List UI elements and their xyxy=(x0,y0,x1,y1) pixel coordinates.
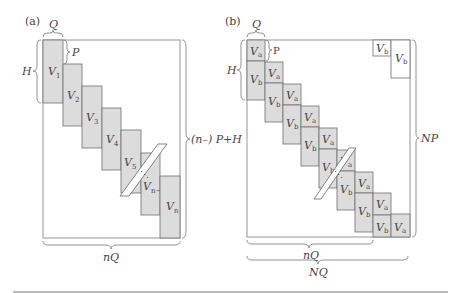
block-col-8: Va xyxy=(391,214,410,237)
panel-b-label: (b) xyxy=(225,15,241,28)
corner-block-small: Vb xyxy=(373,40,391,56)
h-label: H xyxy=(21,65,32,78)
diagram-canvas: (a) Q V1 V2 V3 V4 V5 Vn−1 xyxy=(0,0,455,293)
panel-a-label: (a) xyxy=(25,15,40,28)
ellipsis-dots: ⋱ xyxy=(334,170,343,180)
block-col-0: Va Vb xyxy=(247,40,265,100)
block-col-7: Va Vb xyxy=(373,193,391,237)
block-col-3: Va Vb xyxy=(301,106,319,166)
height-brace-icon xyxy=(182,40,190,238)
figure: (a) Q V1 V2 V3 V4 V5 Vn−1 xyxy=(0,0,455,293)
block-v4: V4 xyxy=(102,108,121,170)
panel-a: (a) Q V1 V2 V3 V4 V5 Vn−1 xyxy=(21,15,242,264)
big-nq-label: NQ xyxy=(308,266,328,279)
nq-label: nQ xyxy=(103,251,119,264)
big-nq-brace-icon xyxy=(247,256,408,264)
ellipsis-dots: ⋱ xyxy=(140,170,149,180)
q-brace-icon xyxy=(43,30,63,37)
nq-brace-icon xyxy=(43,241,180,249)
h-brace-icon xyxy=(237,40,245,100)
block-col-6: Va Vb xyxy=(355,172,373,232)
block-col-1: Va Vb xyxy=(265,62,283,122)
block-vn: Vn xyxy=(160,176,180,238)
nq-brace-icon xyxy=(247,240,373,248)
p-brace-icon xyxy=(266,40,272,61)
block-v2: V2 xyxy=(63,64,82,126)
h-label: H xyxy=(226,64,237,77)
p-label: P xyxy=(71,46,80,59)
p-brace-icon xyxy=(64,40,70,64)
panel-b: (b) Q Va Vb Va Vb Va Vb Va xyxy=(225,15,439,279)
height-label: (n–) P+H xyxy=(191,133,242,146)
q-label: Q xyxy=(49,18,58,31)
q-label: Q xyxy=(252,18,261,31)
p-label: P xyxy=(273,45,280,56)
block-v1: V1 xyxy=(43,40,63,103)
block-col-2: Va Vb xyxy=(283,84,301,144)
q-brace-icon xyxy=(247,30,265,37)
np-brace-icon xyxy=(412,40,419,237)
np-label: NP xyxy=(420,132,439,145)
corner-block-large: Vb xyxy=(391,40,410,78)
block-v3: V3 xyxy=(82,86,102,148)
h-brace-icon xyxy=(33,40,41,103)
